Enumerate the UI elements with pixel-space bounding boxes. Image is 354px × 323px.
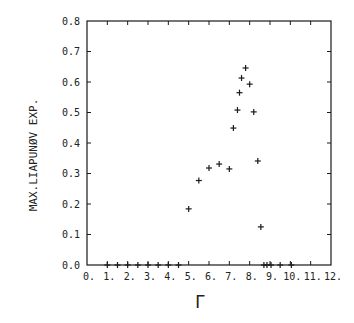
- y-axis-label: MAX.LIAPUNØV EXP.: [27, 99, 40, 212]
- data-points: [104, 65, 294, 268]
- y-tick-labels: 0.00.10.20.30.40.50.60.70.8: [62, 16, 80, 271]
- x-tick-label: 10.: [283, 271, 301, 282]
- x-tick-label: 7.: [225, 271, 237, 282]
- y-tick-label: 0.7: [62, 46, 80, 57]
- plus-marker-icon: [125, 262, 131, 268]
- y-tick-label: 0.0: [62, 260, 80, 271]
- plus-marker-icon: [251, 109, 257, 115]
- plus-marker-icon: [176, 262, 182, 268]
- plus-marker-icon: [145, 262, 151, 268]
- plus-marker-icon: [230, 125, 236, 131]
- plus-marker-icon: [288, 262, 294, 268]
- y-tick-label: 0.1: [62, 229, 80, 240]
- x-tick-label: 8.: [246, 271, 258, 282]
- plus-marker-icon: [258, 224, 264, 230]
- x-tick-label: 11.: [304, 271, 322, 282]
- plus-marker-icon: [135, 262, 141, 268]
- plus-marker-icon: [255, 158, 261, 164]
- plus-marker-icon: [216, 161, 222, 167]
- plus-marker-icon: [196, 178, 202, 184]
- plus-marker-icon: [237, 90, 243, 96]
- scatter-chart: 0.1.2.3.4.5.6.7.8.9.10.11.12. 0.00.10.20…: [0, 0, 354, 323]
- plus-marker-icon: [239, 75, 245, 81]
- x-axis-label: Γ: [195, 292, 205, 312]
- plus-marker-icon: [234, 107, 240, 113]
- y-tick-label: 0.8: [62, 16, 80, 27]
- x-tick-label: 2.: [124, 271, 136, 282]
- x-tick-label: 0.: [83, 271, 95, 282]
- y-tick-label: 0.5: [62, 107, 80, 118]
- plus-marker-icon: [165, 262, 171, 268]
- y-tick-label: 0.2: [62, 199, 80, 210]
- plus-marker-icon: [243, 65, 249, 71]
- x-tick-label: 1.: [103, 271, 115, 282]
- y-tick-label: 0.6: [62, 77, 80, 88]
- y-tick-label: 0.4: [62, 138, 80, 149]
- x-tick-label: 9.: [266, 271, 278, 282]
- x-tick-label: 3.: [144, 271, 156, 282]
- plus-marker-icon: [206, 165, 212, 171]
- plus-marker-icon: [268, 262, 274, 268]
- plus-marker-icon: [104, 262, 110, 268]
- plus-marker-icon: [247, 81, 253, 87]
- axis-ticks: [87, 21, 331, 265]
- x-tick-labels: 0.1.2.3.4.5.6.7.8.9.10.11.12.: [83, 271, 342, 282]
- x-tick-label: 12.: [324, 271, 342, 282]
- x-tick-label: 6.: [205, 271, 217, 282]
- y-tick-label: 0.3: [62, 168, 80, 179]
- plot-frame: [87, 21, 331, 265]
- x-tick-label: 5.: [185, 271, 197, 282]
- x-tick-label: 4.: [164, 271, 176, 282]
- plus-marker-icon: [226, 166, 232, 172]
- plus-marker-icon: [155, 262, 161, 268]
- plus-marker-icon: [277, 262, 283, 268]
- plus-marker-icon: [186, 206, 192, 212]
- plus-marker-icon: [115, 262, 121, 268]
